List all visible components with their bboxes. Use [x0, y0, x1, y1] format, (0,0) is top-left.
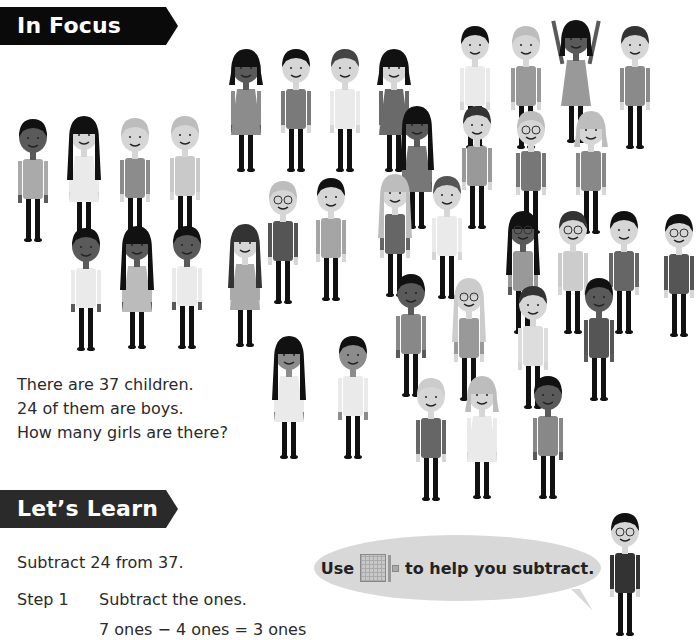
step-text: Subtract the ones.: [99, 585, 247, 615]
lets-learn-title: Let’s Learn: [17, 496, 158, 521]
boy-figure: [318, 43, 372, 177]
problem-line: There are 37 children.: [17, 373, 228, 397]
boy-figure: [59, 222, 113, 356]
base-ten-blocks-icon: [360, 554, 386, 582]
boy-figure: [521, 370, 575, 504]
step-label: Step 1: [17, 585, 99, 615]
boy-with-glasses-speaker: [598, 507, 652, 640]
lesson-text: Subtract 24 from 37. Step 1 Subtract the…: [17, 552, 306, 640]
boy-figure: [160, 220, 214, 354]
boy-figure: [404, 372, 458, 506]
girl-figure: [110, 220, 164, 354]
boy-figure: [652, 208, 699, 342]
problem-line: 24 of them are boys.: [17, 397, 228, 421]
speech-bubble: Use to help you subtract.: [314, 535, 601, 601]
girl-figure: [262, 330, 316, 464]
in-focus-title: In Focus: [17, 13, 121, 38]
girl-figure: [219, 43, 273, 177]
step-equation: 7 ones − 4 ones = 3 ones: [99, 615, 306, 640]
boy-figure: [6, 113, 60, 247]
in-focus-banner: In Focus: [0, 7, 178, 45]
girl-figure: [455, 370, 509, 504]
boy-figure: [572, 272, 626, 406]
bubble-prefix: Use: [321, 559, 354, 578]
problem-line: How many girls are there?: [17, 421, 228, 445]
bubble-suffix: to help you subtract.: [405, 559, 594, 578]
lesson-intro: Subtract 24 from 37.: [17, 552, 183, 585]
boy-figure: [326, 330, 380, 464]
problem-text: There are 37 children. 24 of them are bo…: [17, 373, 228, 445]
boy-figure: [304, 172, 358, 306]
tens-rod-icon: [388, 555, 391, 582]
lets-learn-banner: Let’s Learn: [0, 490, 178, 528]
boy-figure: [269, 43, 323, 177]
ones-cube-icon: [392, 565, 399, 572]
